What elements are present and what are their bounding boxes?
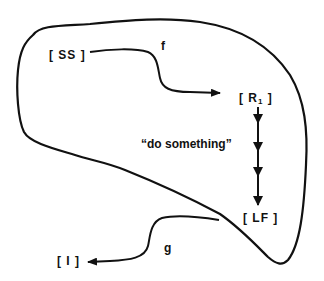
node-i: [ I ] [57, 255, 80, 267]
diagram-canvas: [ SS ] f [ R1 ] “do something” [ LF ] g … [0, 0, 324, 281]
edge-label-g: g [164, 242, 171, 254]
action-chain-arrows [253, 107, 263, 206]
node-lf: [ LF ] [243, 212, 278, 224]
node-ss: [ SS ] [49, 49, 86, 61]
transition-g-arrow [88, 217, 219, 262]
node-r1-open: [ R [239, 91, 258, 105]
transition-f-arrow [90, 49, 220, 93]
edge-label-f: f [161, 40, 165, 52]
node-r1: [ R1 ] [239, 92, 273, 106]
action-label: “do something” [141, 138, 232, 150]
node-r1-close: ] [263, 91, 272, 105]
